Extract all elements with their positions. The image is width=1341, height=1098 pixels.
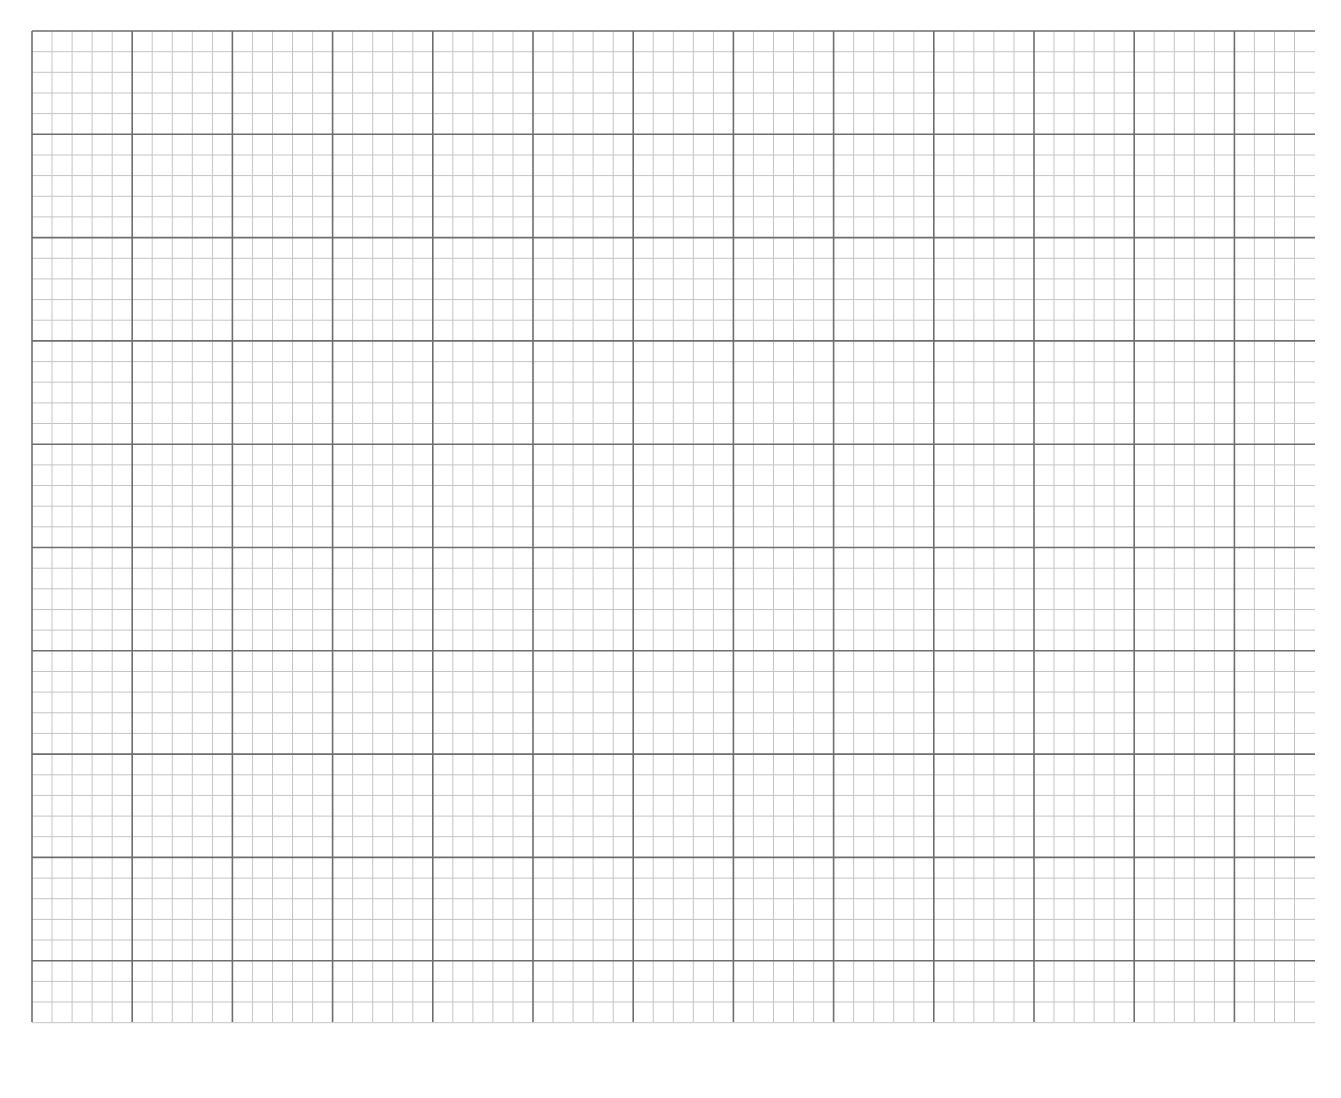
graph-paper-grid xyxy=(0,0,1341,1098)
minor-lines xyxy=(32,31,1315,1023)
